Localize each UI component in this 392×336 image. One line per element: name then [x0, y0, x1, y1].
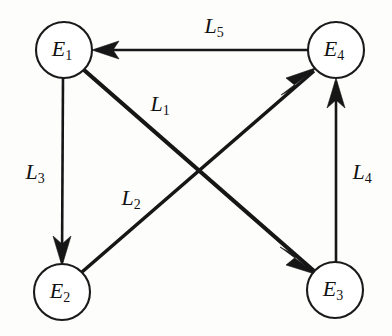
edge-l1-arrowhead [280, 247, 318, 275]
edge-l3-subscript: 3 [38, 171, 45, 186]
graph-diagram: L5 L3 L4 L1 [0, 0, 392, 336]
graph-canvas: L5 L3 L4 L1 [0, 0, 392, 336]
node-e3-base: E [322, 276, 337, 301]
node-e2-subscript: 2 [63, 290, 70, 305]
node-e1-subscript: 1 [65, 48, 72, 63]
edge-label-l3: L3 [24, 159, 44, 186]
node-e1-base: E [51, 36, 66, 61]
node-e4-group[interactable]: E4 [308, 22, 364, 78]
edge-l1-base: L [149, 91, 162, 116]
edge-label-l5: L5 [203, 13, 223, 40]
edge-label-l4: L4 [351, 159, 371, 186]
node-e4-subscript: 4 [337, 48, 344, 63]
edge-l3-line [62, 78, 63, 262]
edge-label-l1: L1 [149, 91, 169, 118]
edge-l2-subscript: 2 [134, 197, 141, 212]
edge-l4-subscript: 4 [365, 171, 372, 186]
edge-l4-base: L [351, 159, 364, 184]
edge-label-l2: L2 [120, 185, 140, 212]
node-e2-group[interactable]: E2 [34, 264, 90, 320]
node-e1-group[interactable]: E1 [36, 22, 92, 78]
edge-l4-group[interactable]: L4 [327, 78, 372, 262]
edge-l1-subscript: 1 [163, 103, 170, 118]
node-e2-base: E [49, 278, 64, 303]
edge-l5-base: L [203, 13, 216, 38]
edge-l2-base: L [120, 185, 133, 210]
edge-l3-group[interactable]: L3 [24, 78, 71, 266]
edge-l5-group[interactable]: L5 [92, 13, 308, 59]
edge-l1-group[interactable]: L1 [84, 70, 318, 275]
edge-l2-arrowhead [281, 67, 318, 95]
node-e4-base: E [323, 36, 338, 61]
node-e3-group[interactable]: E3 [307, 262, 363, 318]
edge-l3-base: L [24, 159, 37, 184]
edge-l5-subscript: 5 [217, 25, 224, 40]
node-e3-subscript: 3 [336, 288, 343, 303]
